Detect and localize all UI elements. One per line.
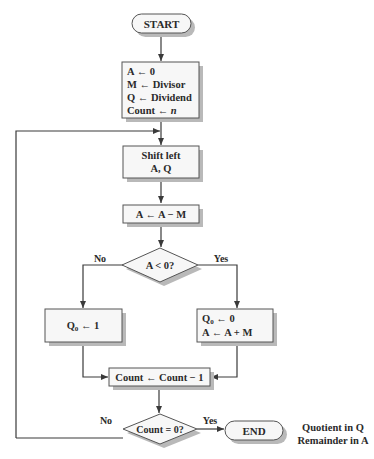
start-label: START: [144, 18, 180, 30]
arrow-q1-to-decrement: [83, 342, 108, 377]
shift-line-2: A, Q: [151, 163, 172, 174]
annotation-quotient: Quotient in Q: [302, 422, 364, 433]
decrement-process: Count ← Count − 1: [109, 368, 214, 390]
end-terminator: END: [225, 421, 287, 444]
annotation-remainder: Remainder in A: [298, 435, 369, 446]
decrement-label: Count ← Count − 1: [115, 372, 203, 383]
flowchart: START A ← 0 M ← Divisor Q ← Dividend Cou…: [0, 0, 374, 459]
shift-process: Shift left A, Q: [123, 146, 203, 182]
test-count-label: Count = 0?: [136, 424, 183, 435]
start-terminator: START: [132, 14, 195, 37]
arrow-test-yes: [198, 265, 237, 308]
test-count-yes-label: Yes: [203, 415, 218, 426]
set-q0-process: Q0 ← 1: [45, 309, 126, 346]
test-count-decision: Count = 0?: [123, 414, 201, 448]
init-line-count: Count ← n: [127, 105, 177, 116]
init-line-q: Q ← Dividend: [127, 92, 192, 103]
subtract-label: A ← A − M: [136, 209, 186, 220]
init-process: A ← 0 M ← Divisor Q ← Dividend Count ← n: [122, 62, 203, 122]
arrow-restore-to-decrement: [211, 342, 237, 377]
test-a-label: A < 0?: [146, 260, 175, 271]
init-line-m: M ← Divisor: [127, 79, 186, 90]
end-label: END: [242, 425, 265, 437]
test-a-yes-label: Yes: [214, 253, 229, 264]
arrow-test-no: [83, 265, 123, 308]
restore-process: Q0 ← 0 A ← A + M: [197, 309, 277, 346]
test-count-no-label: No: [100, 415, 112, 426]
test-a-no-label: No: [94, 253, 106, 264]
test-a-decision: A < 0?: [122, 248, 202, 286]
subtract-process: A ← A − M: [123, 205, 203, 227]
init-line-a: A ← 0: [127, 66, 155, 77]
shift-line-1: Shift left: [142, 150, 181, 161]
restore-line-2: A ← A + M: [202, 327, 252, 338]
